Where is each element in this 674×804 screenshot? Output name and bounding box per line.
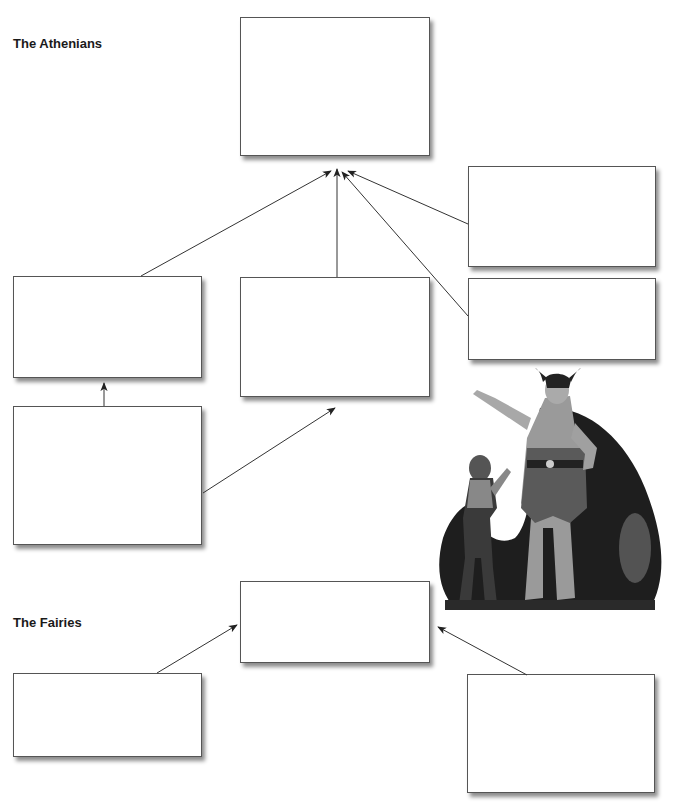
athenians-right-top-box[interactable] [468,166,656,267]
fairies-label: The Fairies [13,615,82,630]
athenians-right-bottom-box[interactable] [468,278,656,360]
fairy-characters-illustration-icon [435,368,669,614]
athenians-middle-box[interactable] [240,277,430,397]
athenians-left-box[interactable] [13,276,202,378]
arrow-lower-left-to-middle [203,408,335,493]
arrow-fairies-right-to-center [438,627,527,675]
fairies-center-box[interactable] [240,581,430,663]
arrow-right-top-to-center [348,171,468,224]
athenians-center-box[interactable] [240,17,430,156]
athenians-label: The Athenians [13,36,102,51]
athenians-lower-left-box[interactable] [13,406,202,545]
arrow-left-to-center [141,171,331,276]
arrow-fairies-left-to-center [157,625,237,673]
fairies-right-box[interactable] [467,674,655,793]
fairies-left-box[interactable] [13,673,202,757]
